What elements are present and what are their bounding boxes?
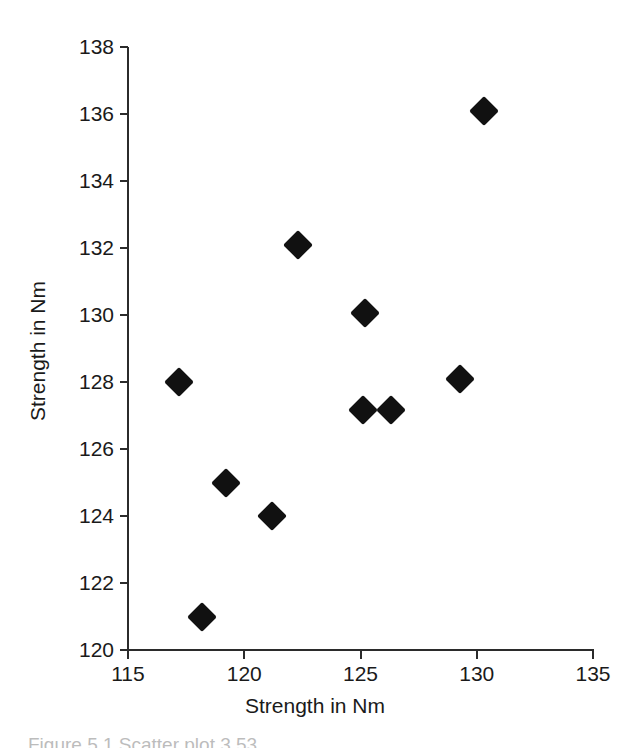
data-point xyxy=(376,396,406,426)
data-point xyxy=(257,501,287,531)
y-tick-126 xyxy=(120,448,128,450)
data-point xyxy=(188,602,218,632)
y-tick-label-120: 120 xyxy=(56,639,114,660)
y-tick-label-124: 124 xyxy=(56,505,114,526)
x-tick-label-130: 130 xyxy=(442,663,512,684)
scatter-plot-figure: 120122124126128130132134136138 115120125… xyxy=(0,0,630,748)
y-tick-label-138: 138 xyxy=(56,36,114,57)
data-point xyxy=(469,96,499,126)
y-tick-138 xyxy=(120,46,128,48)
y-tick-124 xyxy=(120,515,128,517)
data-point xyxy=(348,396,378,426)
y-tick-label-126: 126 xyxy=(56,438,114,459)
x-tick-label-120: 120 xyxy=(209,663,279,684)
x-tick-label-115: 115 xyxy=(93,663,163,684)
x-tick-125 xyxy=(360,651,362,659)
data-point xyxy=(446,364,476,394)
x-tick-130 xyxy=(476,651,478,659)
plot-area xyxy=(128,47,593,650)
x-tick-label-135: 135 xyxy=(558,663,628,684)
y-tick-label-134: 134 xyxy=(56,170,114,191)
y-tick-136 xyxy=(120,113,128,115)
x-tick-135 xyxy=(592,651,594,659)
x-axis-title: Strength in Nm xyxy=(0,694,630,718)
data-point xyxy=(164,367,194,397)
y-tick-128 xyxy=(120,381,128,383)
y-tick-label-136: 136 xyxy=(56,103,114,124)
x-tick-label-125: 125 xyxy=(326,663,396,684)
data-point xyxy=(350,298,380,328)
y-tick-134 xyxy=(120,180,128,182)
figure-caption: Figure 5.1 Scatter plot 3.53 xyxy=(28,734,257,748)
y-tick-label-132: 132 xyxy=(56,237,114,258)
y-tick-label-130: 130 xyxy=(56,304,114,325)
y-axis-title: Strength in Nm xyxy=(26,221,50,481)
y-tick-label-122: 122 xyxy=(56,572,114,593)
x-tick-115 xyxy=(127,651,129,659)
data-point xyxy=(211,468,241,498)
y-tick-122 xyxy=(120,582,128,584)
y-tick-132 xyxy=(120,247,128,249)
y-tick-label-128: 128 xyxy=(56,371,114,392)
x-tick-120 xyxy=(243,651,245,659)
y-tick-130 xyxy=(120,314,128,316)
data-point xyxy=(283,230,313,260)
